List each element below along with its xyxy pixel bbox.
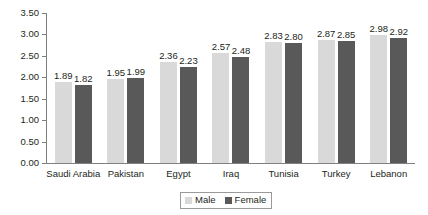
bar-value-label: 2.23 (176, 56, 201, 66)
y-axis-label: 3.00 (0, 29, 39, 39)
bar-male-tunisia (265, 42, 282, 163)
bar-female-pakistan (127, 78, 144, 163)
y-axis-tick (42, 99, 46, 100)
plot-area: 1.891.821.951.992.362.232.572.482.832.80… (47, 13, 415, 163)
bar-value-label: 1.99 (123, 67, 148, 77)
bar-value-label: 2.80 (281, 32, 306, 42)
bar-male-turkey (318, 40, 335, 163)
bar-male-pakistan (107, 79, 124, 163)
y-axis-tick (42, 142, 46, 143)
bar-male-iraq (212, 53, 229, 163)
bar-group: 2.572.48 (205, 13, 258, 163)
bar-male-lebanon (370, 35, 387, 163)
bar-female-iraq (232, 57, 249, 163)
bar-value-label: 2.48 (228, 46, 253, 56)
bar-value-label: 2.85 (334, 30, 359, 40)
legend-item-female: Female (225, 195, 267, 205)
legend-swatch-female-icon (225, 197, 232, 204)
y-axis-tick (42, 13, 46, 14)
bar-group: 2.982.92 (362, 13, 415, 163)
y-axis-label: 2.00 (0, 72, 39, 82)
y-axis-tick (42, 163, 46, 164)
bar-female-tunisia (285, 43, 302, 163)
y-axis-label: 1.00 (0, 115, 39, 125)
bar-female-turkey (338, 41, 355, 163)
bar-group: 2.872.85 (310, 13, 363, 163)
bar-value-label: 1.82 (71, 74, 96, 84)
y-axis-label: 3.50 (0, 8, 39, 18)
y-axis-tick (42, 56, 46, 57)
legend-item-male: Male (185, 195, 216, 205)
chart-legend: Male Female (180, 192, 272, 209)
bar-group: 2.832.80 (257, 13, 310, 163)
bar-male-egypt (160, 62, 177, 163)
x-axis-line (46, 163, 415, 164)
bar-chart: 3.50 3.00 2.50 2.00 1.50 1.00 0.50 0.00 … (0, 0, 428, 215)
bar-value-label: 2.92 (386, 27, 411, 37)
y-axis-tick (42, 77, 46, 78)
legend-label-female: Female (235, 195, 267, 205)
bar-female-lebanon (390, 38, 407, 163)
legend-label-male: Male (195, 195, 216, 205)
bar-group: 1.891.82 (47, 13, 100, 163)
y-axis-label: 2.50 (0, 51, 39, 61)
y-axis-tick (42, 120, 46, 121)
y-axis-label: 0.50 (0, 137, 39, 147)
bar-group: 1.951.99 (100, 13, 153, 163)
y-axis-tick (42, 34, 46, 35)
bar-female-egypt (180, 67, 197, 163)
x-axis-label-lebanon: Lebanon (356, 168, 421, 179)
legend-swatch-male-icon (185, 197, 192, 204)
bar-female-saudi-arabia (75, 85, 92, 163)
bar-group: 2.362.23 (152, 13, 205, 163)
bar-male-saudi-arabia (55, 82, 72, 163)
y-axis-label: 0.00 (0, 158, 39, 168)
y-axis-label: 1.50 (0, 94, 39, 104)
